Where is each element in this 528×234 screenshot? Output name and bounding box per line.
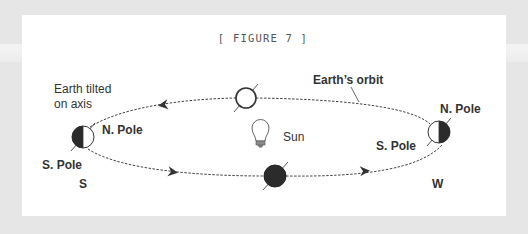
earths-orbit-leader-line [351,87,359,102]
left-north-pole-label: N. Pole [102,123,143,137]
earth-left-icon [71,123,95,151]
right-direction-label: W [432,177,444,191]
right-south-pole-label: S. Pole [376,139,416,153]
earths-orbit-label: Earth’s orbit [313,73,383,87]
earth-right-icon [427,118,451,146]
right-north-pole-label: N. Pole [440,102,481,116]
earth-tilted-label-line2: on axis [54,97,92,111]
earth-tilted-label-line1: Earth tilted [54,82,111,96]
sun-label: Sun [283,130,304,144]
earth-bottom-icon [263,162,288,190]
light-bulb-icon [252,120,269,148]
left-south-pole-label: S. Pole [42,158,82,172]
left-direction-label: S [79,177,87,191]
earth-top-icon [234,84,258,112]
orbit-direction-arrow-bottom-right [360,166,371,177]
figure-title: [ FIGURE 7 ] [218,32,308,44]
orbit-diagram: [ FIGURE 7 ] [0,0,528,234]
